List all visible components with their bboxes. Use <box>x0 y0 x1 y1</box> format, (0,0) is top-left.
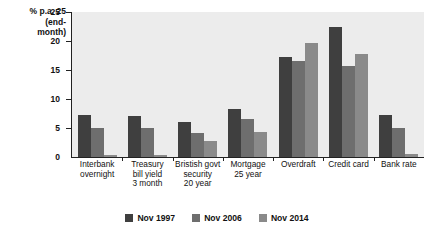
x-axis-label-line: Credit card <box>324 160 372 170</box>
y-tick-label: 20 <box>51 36 60 46</box>
legend-swatch <box>192 214 200 222</box>
legend-label: Nov 2006 <box>204 213 242 223</box>
x-axis-label-line: Overdraft <box>274 160 322 170</box>
bar <box>379 115 392 157</box>
bar-group <box>72 12 122 157</box>
x-axis-label: Interbankovernight <box>72 160 122 189</box>
bar <box>91 128 104 157</box>
y-tick-label: 25 <box>51 7 60 17</box>
bar-chart: % p.a. 25 (end- month) 0510152025 Interb… <box>0 0 434 232</box>
x-axis-label: Bristish govtsecurity20 year <box>173 160 223 189</box>
legend-item: Nov 1997 <box>125 213 175 223</box>
x-axis-label: Overdraft <box>273 160 323 189</box>
bar <box>178 122 191 157</box>
bar <box>305 43 318 157</box>
x-axis-separator <box>223 157 224 161</box>
bar <box>355 54 368 157</box>
bar-group <box>173 12 223 157</box>
bar <box>204 141 217 157</box>
x-axis-label-line: 25 year <box>224 170 272 180</box>
bar <box>228 109 241 157</box>
y-tick-label: 15 <box>51 65 60 75</box>
y-tick-mark <box>66 99 71 100</box>
y-tick-mark <box>66 41 71 42</box>
bar <box>342 66 355 157</box>
x-axis-label: Bank rate <box>374 160 424 189</box>
y-tick-label: 10 <box>51 94 60 104</box>
bar <box>241 119 254 157</box>
x-axis-separator <box>122 157 123 161</box>
bar <box>392 128 405 157</box>
bar <box>191 133 204 157</box>
x-axis-separator <box>323 157 324 161</box>
x-axis-separator <box>173 157 174 161</box>
chart-legend: Nov 1997Nov 2006Nov 2014 <box>0 213 434 223</box>
x-axis-label-line: overnight <box>73 170 121 180</box>
y-axis-ticks: 0510152025 <box>0 0 70 157</box>
legend-swatch <box>259 214 267 222</box>
legend-swatch <box>125 214 133 222</box>
x-axis-separator <box>273 157 274 161</box>
x-axis-labels: InterbankovernightTreasurybill yield3 mo… <box>72 160 424 189</box>
bar <box>104 155 117 157</box>
x-axis-line <box>71 157 424 158</box>
bar <box>141 128 154 157</box>
bar-group <box>323 12 373 157</box>
bar <box>405 154 418 157</box>
x-axis-label: Mortgage25 year <box>223 160 273 189</box>
x-axis-label: Credit card <box>323 160 373 189</box>
bar-group <box>374 12 424 157</box>
x-axis-label-line: 20 year <box>174 179 222 189</box>
x-axis-label-line: 3 month <box>123 179 171 189</box>
bar-group <box>223 12 273 157</box>
legend-label: Nov 1997 <box>137 213 175 223</box>
y-tick-label: 0 <box>55 152 60 162</box>
y-tick-mark <box>66 128 71 129</box>
legend-item: Nov 2014 <box>259 213 309 223</box>
bar <box>279 57 292 157</box>
bar <box>154 155 167 157</box>
y-tick-label: 5 <box>55 123 60 133</box>
bar <box>128 116 141 157</box>
y-tick-mark <box>66 70 71 71</box>
bar-group <box>273 12 323 157</box>
bar <box>254 132 267 157</box>
legend-item: Nov 2006 <box>192 213 242 223</box>
bar <box>329 27 342 158</box>
bar <box>78 115 91 157</box>
x-axis-label: Treasurybill yield3 month <box>122 160 172 189</box>
x-axis-label-line: Bank rate <box>375 160 423 170</box>
y-tick-mark <box>66 12 71 13</box>
legend-label: Nov 2014 <box>271 213 309 223</box>
bar-group <box>122 12 172 157</box>
bar <box>292 61 305 157</box>
bar-groups <box>72 12 424 157</box>
x-axis-separator <box>374 157 375 161</box>
